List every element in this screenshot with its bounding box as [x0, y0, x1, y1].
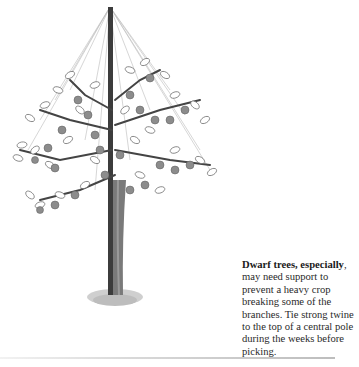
- caption-text: Dwarf trees, especially, may need suppor…: [242, 259, 359, 358]
- book-page: Dwarf trees, especially, may need suppor…: [0, 0, 359, 367]
- caption-lead: Dwarf trees, especially: [242, 259, 344, 270]
- tree-illustration: [0, 0, 230, 320]
- page-divider: [0, 357, 335, 359]
- caption-body: , may need support to prevent a heavy cr…: [242, 259, 354, 357]
